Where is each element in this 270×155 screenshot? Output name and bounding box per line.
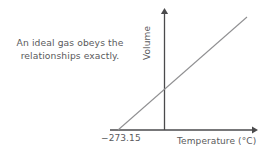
x-axis-arrowhead [252,126,258,133]
y-axis-label: Volume [141,12,153,74]
plot-area [0,0,270,155]
x-axis-label: Temperature (°C) [177,136,256,146]
y-axis [161,8,168,130]
y-axis-arrowhead [161,8,168,14]
data-line-ideal-gas [118,17,247,130]
x-axis-tick-label: −273.15 [101,133,141,143]
figure-canvas: An ideal gas obeys the relationships exa… [0,0,270,155]
